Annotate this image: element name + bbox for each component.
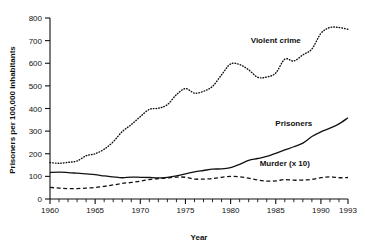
y-tick-label: 600 xyxy=(29,59,43,68)
series-label-group: Violent crimePrisonersMurder (x 10) xyxy=(251,36,313,168)
y-axis-ticks: 0100200300400500600700800 xyxy=(29,14,50,204)
x-tick-label: 1965 xyxy=(86,206,104,215)
y-tick-label: 500 xyxy=(29,82,43,91)
y-tick-label: 200 xyxy=(29,150,43,159)
series-label-murder-x-10: Murder (x 10) xyxy=(260,159,311,168)
y-tick-label: 800 xyxy=(29,14,43,23)
series-label-prisoners: Prisoners xyxy=(275,119,312,128)
line-chart: Prisoners per 100,000 inhabitants Year 0… xyxy=(0,0,365,248)
chart-container: Prisoners per 100,000 inhabitants Year 0… xyxy=(0,0,365,248)
x-axis-ticks: 19601965197019751980198519901993 xyxy=(41,199,357,215)
x-tick-label: 1980 xyxy=(222,206,240,215)
x-axis-title: Year xyxy=(191,233,208,242)
x-tick-label: 1970 xyxy=(131,206,149,215)
series-label-violent-crime: Violent crime xyxy=(251,36,302,45)
y-tick-label: 700 xyxy=(29,37,43,46)
y-tick-label: 100 xyxy=(29,172,43,181)
y-tick-label: 400 xyxy=(29,105,43,114)
x-tick-label: 1990 xyxy=(312,206,330,215)
series-line-murder-x-10 xyxy=(50,176,348,188)
y-axis-title: Prisoners per 100,000 inhabitants xyxy=(8,46,17,174)
x-tick-label: 1975 xyxy=(177,206,195,215)
x-tick-label: 1993 xyxy=(339,206,357,215)
y-tick-label: 300 xyxy=(29,127,43,136)
y-tick-label: 0 xyxy=(38,195,43,204)
x-tick-label: 1985 xyxy=(267,206,285,215)
x-tick-label: 1960 xyxy=(41,206,59,215)
